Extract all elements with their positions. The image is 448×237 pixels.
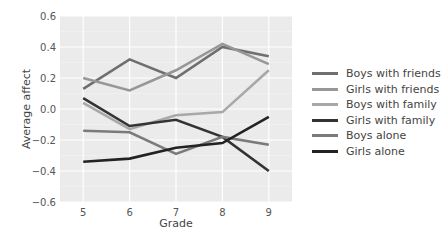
legend-item: Boys with family (312, 97, 441, 113)
y-tick-label: 0.6 (40, 11, 56, 22)
legend-swatch-icon (312, 103, 338, 106)
legend-label: Girls with family (346, 114, 435, 127)
legend-swatch-icon (312, 150, 338, 153)
legend-swatch-icon (312, 88, 338, 91)
x-axis-label: Grade (159, 217, 193, 230)
legend-item: Boys with friends (312, 66, 441, 82)
y-axis-label: Average affect (20, 68, 33, 149)
x-tick-label: 5 (80, 207, 86, 218)
legend-label: Boys with friends (346, 67, 441, 80)
x-tick-label: 9 (266, 207, 272, 218)
chart-legend: Boys with friendsGirls with friendsBoys … (312, 66, 441, 159)
y-tick-label: 0.0 (40, 104, 56, 115)
legend-label: Girls with friends (346, 83, 439, 96)
legend-item: Girls with friends (312, 82, 441, 98)
legend-swatch-icon (312, 119, 338, 122)
legend-item: Girls with family (312, 113, 441, 129)
legend-label: Girls alone (346, 145, 405, 158)
legend-item: Boys alone (312, 128, 441, 144)
x-tick-label: 8 (219, 207, 225, 218)
legend-swatch-icon (312, 72, 338, 75)
y-tick-label: 0.4 (40, 42, 56, 53)
y-tick-label: 0.2 (40, 73, 56, 84)
y-tick-label: −0.4 (32, 166, 56, 177)
y-tick-label: −0.6 (32, 197, 56, 208)
legend-label: Boys alone (346, 129, 406, 142)
legend-item: Girls alone (312, 144, 441, 160)
x-tick-label: 6 (126, 207, 132, 218)
y-axis-ticks: 0.60.40.20.0−0.2−0.4−0.6 (32, 11, 56, 208)
y-tick-label: −0.2 (32, 135, 56, 146)
legend-swatch-icon (312, 134, 338, 137)
legend-label: Boys with family (346, 98, 437, 111)
